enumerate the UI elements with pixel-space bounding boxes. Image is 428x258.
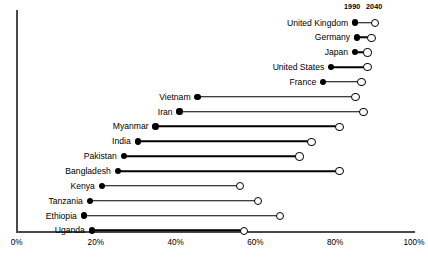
row-label: Kenya (70, 182, 94, 191)
marker-2040 (335, 123, 343, 131)
marker-2040 (359, 108, 367, 116)
marker-1990 (99, 183, 105, 189)
row-label: France (289, 78, 316, 87)
marker-1990 (89, 227, 95, 233)
marker-2040 (335, 167, 343, 175)
row-connector-line (180, 111, 364, 113)
chart-row: Uganda (0, 223, 428, 238)
chart-row: United Kingdom (0, 15, 428, 30)
marker-1990 (352, 19, 358, 25)
row-label: India (112, 137, 131, 146)
chart-row: Ethiopia (0, 208, 428, 223)
marker-1990 (152, 123, 158, 129)
marker-1990 (81, 212, 87, 218)
row-label: Tanzania (48, 196, 82, 205)
row-label: Vietnam (159, 92, 190, 101)
marker-2040 (357, 78, 365, 86)
marker-2040 (254, 197, 262, 205)
row-label: United States (273, 63, 325, 72)
chart-row: Tanzania (0, 193, 428, 208)
x-tick-label: 40% (167, 238, 183, 247)
chart-row: United States (0, 60, 428, 75)
row-connector-line (198, 96, 356, 98)
row-label: United Kingdom (287, 18, 348, 27)
marker-2040 (367, 34, 375, 42)
row-connector-line (124, 155, 300, 157)
x-tick-label: 0% (11, 238, 23, 247)
row-connector-line (92, 230, 244, 232)
x-tick-label: 100% (403, 238, 424, 247)
row-connector-line (323, 81, 361, 83)
row-connector-line (102, 185, 240, 187)
marker-2040 (276, 212, 284, 220)
chart-row: India (0, 134, 428, 149)
x-tick-label: 60% (247, 238, 263, 247)
dumbbell-chart: 1990 2040 United KingdomGermanyJapanUnit… (0, 0, 428, 258)
marker-2040 (363, 63, 371, 71)
row-label: Pakistan (84, 152, 117, 161)
chart-row: Pakistan (0, 149, 428, 164)
legend-label-2040: 2040 (366, 2, 382, 11)
row-connector-line (156, 126, 340, 128)
marker-1990 (328, 64, 334, 70)
chart-row: Bangladesh (0, 164, 428, 179)
chart-row: Vietnam (0, 89, 428, 104)
chart-row: Iran (0, 104, 428, 119)
marker-1990 (115, 168, 121, 174)
row-label: Japan (325, 48, 348, 57)
row-connector-line (118, 170, 339, 172)
marker-1990 (176, 108, 182, 114)
marker-2040 (295, 152, 303, 160)
marker-2040 (236, 182, 244, 190)
chart-row: Kenya (0, 178, 428, 193)
marker-2040 (307, 138, 315, 146)
row-connector-line (84, 215, 280, 217)
row-label: Myanmar (113, 122, 149, 131)
marker-1990 (320, 79, 326, 85)
marker-1990 (121, 153, 127, 159)
chart-row: France (0, 74, 428, 89)
marker-1990 (354, 34, 360, 40)
marker-2040 (371, 19, 379, 27)
marker-2040 (351, 93, 359, 101)
marker-1990 (194, 94, 200, 100)
marker-1990 (87, 198, 93, 204)
row-connector-line (90, 200, 258, 202)
chart-row: Myanmar (0, 119, 428, 134)
row-label: Bangladesh (65, 167, 110, 176)
legend-label-1990: 1990 (344, 2, 360, 11)
marker-1990 (135, 138, 141, 144)
row-connector-line (138, 141, 312, 143)
chart-row: Germany (0, 30, 428, 45)
marker-1990 (352, 49, 358, 55)
chart-row: Japan (0, 45, 428, 60)
row-connector-line (331, 66, 367, 68)
x-tick-label: 20% (88, 238, 104, 247)
row-label: Iran (158, 107, 173, 116)
x-tick-label: 80% (327, 238, 343, 247)
marker-2040 (240, 227, 248, 235)
marker-2040 (363, 48, 371, 56)
row-label: Ethiopia (46, 211, 77, 220)
row-label: Uganda (55, 226, 85, 235)
row-label: Germany (315, 33, 350, 42)
